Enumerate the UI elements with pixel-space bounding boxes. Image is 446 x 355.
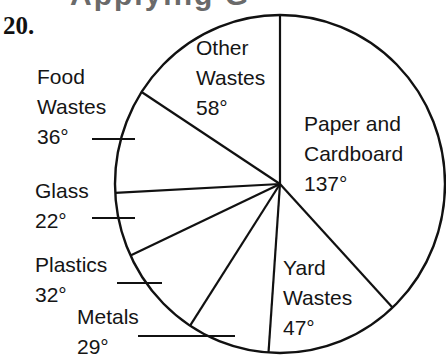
label-other-value: 58° <box>196 93 265 123</box>
label-metals: Metals 29° <box>77 302 139 355</box>
label-yard-line1: Yard <box>283 253 352 283</box>
slice-boundary-5 <box>115 184 280 193</box>
label-yard-value: 47° <box>283 313 352 343</box>
label-paper-value: 137° <box>304 169 403 199</box>
label-other-line2: Wastes <box>196 63 265 93</box>
label-glass-value: 22° <box>35 206 89 236</box>
label-paper-cardboard: Paper and Cardboard 137° <box>304 109 403 199</box>
label-metals-line1: Metals <box>77 302 139 332</box>
label-other-line1: Other <box>196 33 265 63</box>
label-yard-wastes: Yard Wastes 47° <box>283 253 352 343</box>
label-paper-line1: Paper and <box>304 109 403 139</box>
label-other-wastes: Other Wastes 58° <box>196 33 265 123</box>
label-metals-value: 29° <box>77 332 139 355</box>
label-food-line1: Food <box>37 62 106 92</box>
label-paper-line2: Cardboard <box>304 139 403 169</box>
label-glass: Glass 22° <box>35 176 89 236</box>
label-plastics: Plastics 32° <box>35 250 107 310</box>
label-food-line2: Wastes <box>37 92 106 122</box>
label-yard-line2: Wastes <box>283 283 352 313</box>
slice-boundary-2 <box>269 184 281 353</box>
label-plastics-line1: Plastics <box>35 250 107 280</box>
label-glass-line1: Glass <box>35 176 89 206</box>
label-food-wastes: Food Wastes 36° <box>37 62 106 152</box>
label-food-value: 36° <box>37 122 106 152</box>
